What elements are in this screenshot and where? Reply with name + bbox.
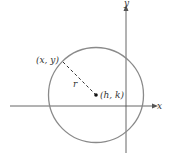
x-axis-label: x: [157, 101, 162, 111]
center-label: (h, k): [100, 90, 124, 100]
point-label: (x, y): [36, 55, 59, 65]
circle-diagram: (x, y) r (h, k) x y: [0, 0, 171, 157]
y-axis-label: y: [123, 0, 130, 8]
radius-label: r: [73, 79, 78, 89]
center-point: [94, 93, 98, 97]
radius-line: [63, 62, 96, 95]
